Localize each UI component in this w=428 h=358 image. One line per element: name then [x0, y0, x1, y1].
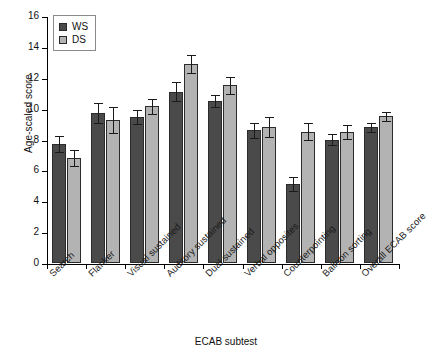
error-bar-cap-upper	[382, 112, 391, 113]
bar-ws	[364, 127, 378, 263]
error-bar-cap-lower	[109, 133, 118, 134]
y-axis-tick: 6	[42, 171, 47, 172]
error-bar	[176, 82, 177, 101]
legend-swatch-ws-icon	[59, 23, 67, 31]
error-bar	[74, 150, 75, 165]
error-bar-cap-upper	[328, 134, 337, 135]
error-bar-cap-lower	[133, 124, 142, 125]
error-bar-cap-lower	[211, 107, 220, 108]
error-bar	[347, 125, 348, 139]
error-bar	[215, 95, 216, 107]
bar-ds	[223, 85, 237, 263]
bar-group	[91, 16, 121, 263]
y-axis-tick: 14	[42, 48, 47, 49]
error-bar-cap-upper	[148, 99, 157, 100]
y-axis-tick-label: 10	[28, 103, 39, 114]
bar-group	[364, 16, 394, 263]
error-bar-cap-lower	[187, 73, 196, 74]
error-bar	[137, 110, 138, 124]
bar-ws	[91, 113, 105, 263]
error-bar	[254, 123, 255, 138]
y-axis-tick: 12	[42, 79, 47, 80]
bar-group	[247, 16, 277, 263]
y-axis-tick: 2	[42, 233, 47, 234]
x-axis-tick	[399, 264, 400, 269]
error-bar-cap-upper	[211, 95, 220, 96]
y-axis-tick: 8	[42, 141, 47, 142]
error-bar-cap-upper	[133, 110, 142, 111]
error-bar-cap-lower	[94, 123, 103, 124]
error-bar	[152, 99, 153, 114]
bar-ws	[130, 117, 144, 263]
error-bar-cap-lower	[250, 138, 259, 139]
bar-ws	[325, 140, 339, 264]
error-bar-cap-upper	[343, 125, 352, 126]
error-bar-cap-upper	[70, 150, 79, 151]
error-bar	[230, 77, 231, 94]
error-bar	[386, 112, 387, 121]
error-bar-cap-lower	[304, 140, 313, 141]
y-axis-tick: 10	[42, 110, 47, 111]
legend-label-ws: WS	[72, 21, 88, 32]
y-axis-tick-label: 8	[33, 134, 39, 145]
bar-ds	[106, 120, 120, 263]
error-bar-cap-lower	[289, 191, 298, 192]
error-bar-cap-upper	[94, 103, 103, 104]
error-bar	[332, 134, 333, 145]
legend-label-ds: DS	[72, 34, 86, 45]
error-bar-cap-lower	[382, 121, 391, 122]
y-axis-tick-label: 16	[28, 10, 39, 21]
error-bar-cap-lower	[172, 101, 181, 102]
y-axis-tick-label: 4	[33, 195, 39, 206]
error-bar-cap-upper	[55, 136, 64, 137]
error-bar-cap-upper	[289, 177, 298, 178]
y-axis-tick: 16	[42, 17, 47, 18]
legend-item-ds: DS	[59, 33, 88, 46]
error-bar-cap-lower	[148, 114, 157, 115]
error-bar-cap-upper	[250, 123, 259, 124]
error-bar	[98, 103, 99, 123]
error-bar-cap-upper	[109, 107, 118, 108]
error-bar-cap-lower	[55, 152, 64, 153]
error-bar	[269, 117, 270, 137]
error-bar-cap-lower	[265, 137, 274, 138]
error-bar-cap-lower	[70, 166, 79, 167]
error-bar-cap-upper	[265, 117, 274, 118]
y-axis-tick-label: 2	[33, 226, 39, 237]
bar-group	[130, 16, 160, 263]
x-axis-title: ECAB subtest	[56, 336, 396, 347]
y-axis-line	[47, 17, 48, 265]
bar-group	[52, 16, 82, 263]
y-axis-tick: 4	[42, 202, 47, 203]
error-bar-cap-lower	[367, 132, 376, 133]
error-bar	[308, 123, 309, 140]
y-axis-tick-label: 14	[28, 41, 39, 52]
error-bar-cap-upper	[367, 123, 376, 124]
legend-swatch-ds-icon	[59, 36, 67, 44]
error-bar-cap-lower	[328, 145, 337, 146]
bar-ws	[247, 130, 261, 263]
bar-ws	[52, 144, 66, 263]
chart-legend: WS DS	[53, 15, 96, 51]
error-bar	[371, 123, 372, 132]
error-bar-cap-upper	[304, 123, 313, 124]
bar-ds	[184, 64, 198, 263]
error-bar-cap-lower	[226, 94, 235, 95]
error-bar-cap-upper	[187, 55, 196, 56]
bar-ds	[67, 158, 81, 263]
y-axis-tick-label: 6	[33, 164, 39, 175]
y-axis-tick-label: 12	[28, 72, 39, 83]
error-bar	[293, 177, 294, 191]
legend-item-ws: WS	[59, 20, 88, 33]
error-bar	[59, 136, 60, 151]
error-bar	[191, 55, 192, 74]
y-axis-tick-label: 0	[33, 257, 39, 268]
error-bar-cap-lower	[343, 139, 352, 140]
error-bar-cap-upper	[172, 82, 181, 83]
error-bar	[113, 107, 114, 133]
error-bar-cap-upper	[226, 77, 235, 78]
